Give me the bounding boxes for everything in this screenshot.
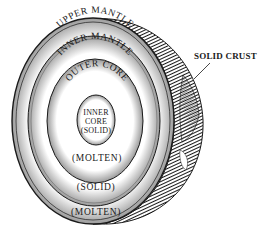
label-inner-core-state: (SOLID) [81, 126, 111, 135]
callout-leader-line [194, 63, 210, 79]
label-inner-core-line1: INNER [83, 108, 109, 117]
label-solid-crust: SOLID CRUST [194, 51, 257, 61]
label-outer-core-state: (MOLTEN) [72, 153, 122, 164]
label-inner-core-line2: CORE [85, 117, 107, 126]
earth-layers-diagram: UPPER MANTLE INNER MANTLE OUTER CORE INN… [0, 0, 277, 236]
label-upper-mantle-state: (MOLTEN) [71, 207, 121, 218]
label-inner-mantle-state: (SOLID) [77, 182, 116, 193]
